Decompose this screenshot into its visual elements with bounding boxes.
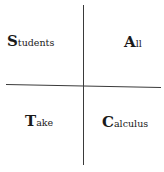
quadrant-bottom-right-initial: C <box>102 113 114 131</box>
quadrant-top-right-label: All <box>124 34 142 50</box>
quadrant-bottom-left-rest: ake <box>36 117 53 128</box>
quadrant-bottom-right-rest: alculus <box>114 118 148 129</box>
quadrant-bottom-right-label: Calculus <box>102 114 148 130</box>
quadrant-top-left-rest: tudents <box>18 37 54 48</box>
quadrant-top-right-rest: ll <box>136 38 142 49</box>
quadrant-top-left-label: Students <box>7 33 54 49</box>
quadrant-bottom-left-initial: T <box>25 112 36 130</box>
quadrant-top-left-initial: S <box>7 32 18 50</box>
quadrant-bottom-left-label: Take <box>25 113 53 129</box>
quadrant-top-right-initial: A <box>124 33 136 51</box>
